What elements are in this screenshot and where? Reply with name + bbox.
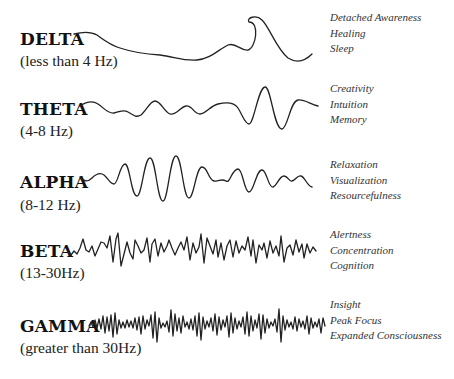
brainwave-diagram: DELTA (less than 4 Hz) Detached Awarenes… bbox=[0, 0, 454, 379]
delta-wave bbox=[74, 17, 312, 61]
beta-wave bbox=[68, 233, 316, 266]
alpha-wave bbox=[80, 156, 312, 201]
theta-wave bbox=[80, 87, 318, 129]
gamma-wave bbox=[89, 309, 325, 342]
waveforms bbox=[0, 0, 454, 379]
